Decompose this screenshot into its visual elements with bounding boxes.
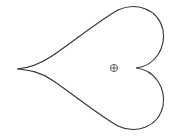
heart-diagram bbox=[0, 0, 170, 136]
heart-outline bbox=[17, 7, 163, 130]
crosshair-marker-icon bbox=[110, 64, 117, 71]
